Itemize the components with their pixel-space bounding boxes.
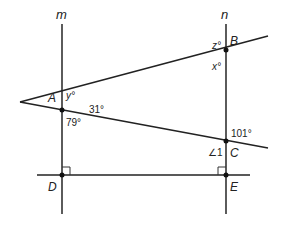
point-d [60,173,65,178]
label-point-a: A [47,91,56,105]
angle-z-label: z° [211,40,221,51]
label-point-b: B [230,34,238,48]
angle-1-label: ∠1 [208,147,223,158]
angle-31-label: 31° [89,104,104,115]
geometry-diagram: m n A B C D E y° 31° 79° z° x° 101° ∠1 [0,0,281,227]
point-e [224,173,229,178]
point-c [224,139,229,144]
angle-101-label: 101° [231,128,252,139]
point-a [60,108,65,113]
angle-y-label: y° [65,90,75,101]
label-point-c: C [230,146,239,160]
angle-79-label: 79° [66,117,81,128]
label-point-e: E [230,180,239,194]
point-b [224,48,229,53]
line-ac [20,102,268,148]
label-line-n: n [221,7,228,22]
angle-x-label: x° [211,61,221,72]
label-point-d: D [48,180,57,194]
label-line-m: m [56,7,67,22]
